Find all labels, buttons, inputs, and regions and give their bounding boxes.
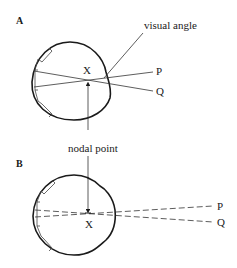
- panel-b-label: B: [16, 158, 23, 169]
- panel-b-ray-q: [35, 210, 213, 222]
- panel-b-retina: [37, 180, 55, 251]
- panel-b: B X P Q: [16, 158, 225, 255]
- panel-a-eyeball: [32, 42, 111, 120]
- panel-a-label-q: Q: [156, 85, 164, 97]
- panel-a-retina: [35, 48, 52, 117]
- panel-a-label-p: P: [156, 65, 162, 77]
- panel-a-visual-angle-pointer: [104, 33, 143, 78]
- panel-b-nodal-x: X: [85, 218, 93, 230]
- panel-a-nodal-x: X: [83, 64, 91, 76]
- panel-b-eyeball: [33, 175, 115, 255]
- panel-b-label-p: P: [217, 200, 223, 212]
- panel-b-label-q: Q: [217, 216, 225, 228]
- nodal-point-label: nodal point: [68, 142, 118, 154]
- panel-a-label: A: [16, 15, 24, 26]
- panel-b-ray-p: [35, 206, 213, 217]
- panel-a: A X visual angle P Q: [16, 15, 197, 120]
- eye-visual-angle-diagram: A X visual angle P Q nodal point B: [0, 0, 237, 268]
- visual-angle-label: visual angle: [144, 19, 197, 31]
